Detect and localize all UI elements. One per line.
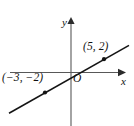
y-axis-label: y — [62, 17, 67, 28]
data-point-marker-right — [102, 57, 106, 61]
origin-label: O — [73, 73, 81, 85]
data-point-marker-left — [43, 90, 47, 94]
coordinate-plane-figure: (−3, −2) (5, 2) O x y — [0, 0, 134, 126]
point-label-left: (−3, −2) — [2, 72, 43, 84]
point-label-right: (5, 2) — [83, 41, 109, 53]
graph-canvas — [0, 0, 134, 126]
x-axis-label: x — [121, 76, 126, 87]
y-axis-arrowhead — [67, 17, 74, 24]
